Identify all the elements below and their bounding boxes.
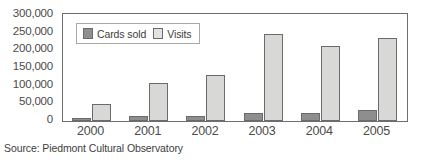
bar-group — [349, 14, 406, 121]
y-axis-tick-label: 200,000 — [13, 42, 53, 54]
bar-cards-sold-2004 — [301, 113, 320, 121]
x-axis-tick-label: 2001 — [119, 124, 176, 139]
y-axis-tick-labels: 300,000250,000200,000150,000100,00050,00… — [0, 6, 57, 124]
chart-legend: Cards sold Visits — [76, 23, 200, 44]
y-axis-tick-label: 50,000 — [19, 95, 53, 107]
legend-entry-cards-sold: Cards sold — [83, 28, 146, 40]
bar-cards-sold-2002 — [186, 116, 205, 121]
legend-entry-visits: Visits — [153, 28, 191, 40]
bar-visits-2004 — [321, 46, 340, 121]
bar-group — [235, 14, 292, 121]
y-axis-tick-label: 250,000 — [13, 25, 53, 37]
x-axis-tick-label: 2003 — [234, 124, 291, 139]
source-note: Source: Piedmont Cultural Observatory — [4, 142, 183, 154]
bar-cards-sold-2005 — [358, 110, 377, 121]
bar-cards-sold-2000 — [72, 118, 91, 121]
y-axis-tick-label: 0 — [47, 113, 53, 125]
y-axis-tick-label: 100,000 — [13, 78, 53, 90]
bar-cards-sold-2001 — [129, 116, 148, 121]
x-axis-tick-labels: 200020012002200320042005 — [62, 124, 408, 140]
x-axis-tick-label: 2000 — [62, 124, 119, 139]
y-axis-tick-label: 150,000 — [13, 60, 53, 72]
legend-swatch-icon-visits — [153, 28, 163, 39]
bar-visits-2005 — [378, 38, 397, 121]
bar-cards-sold-2003 — [244, 113, 263, 121]
y-axis-tick-label: 300,000 — [13, 7, 53, 19]
bar-visits-2001 — [149, 83, 168, 121]
bar-visits-2003 — [264, 34, 283, 121]
bar-group — [292, 14, 349, 121]
x-axis-tick-label: 2002 — [176, 124, 233, 139]
legend-swatch-icon-cards-sold — [83, 28, 93, 39]
legend-label-visits: Visits — [167, 28, 191, 40]
bar-chart-figure: 300,000250,000200,000150,000100,00050,00… — [0, 0, 424, 160]
legend-label-cards-sold: Cards sold — [97, 28, 146, 40]
bar-visits-2000 — [92, 104, 111, 121]
bar-visits-2002 — [206, 75, 225, 121]
x-axis-tick-label: 2005 — [348, 124, 405, 139]
x-axis-tick-label: 2004 — [291, 124, 348, 139]
